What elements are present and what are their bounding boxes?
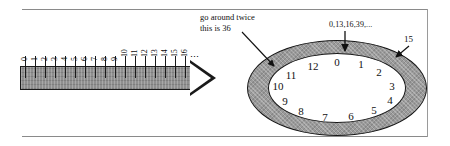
- frame-rule-top: [22, 9, 428, 10]
- figure-canvas: 0 1 2 3 4 5 6 7 8 9 10 11 12 13 14 15 16: [0, 0, 450, 146]
- number-line-continuation-label: ⋮: [191, 51, 200, 61]
- number-line-tick: [135, 56, 136, 78]
- number-line-tick-label: 7: [91, 57, 99, 61]
- number-line: 0 1 2 3 4 5 6 7 8 9 10 11 12 13 14 15 16: [20, 66, 210, 90]
- number-line-tick-label: 2: [41, 57, 49, 61]
- number-line-tick-label: 15: [171, 49, 179, 57]
- clock-number: 7: [322, 112, 328, 123]
- number-line-tick-label: 16: [181, 49, 189, 57]
- clock-number: 9: [282, 96, 288, 107]
- number-line-tick: [165, 56, 166, 78]
- annotation-go-around-twice-line2: this is 36: [200, 23, 255, 34]
- number-line-tick-label: 5: [71, 57, 79, 61]
- clock-number: 6: [348, 111, 354, 122]
- modular-clock: 0 1 2 3 4 5 6 7 8 9 10 11 12: [247, 40, 427, 136]
- number-line-tick: [145, 56, 146, 78]
- number-line-tick: [185, 56, 186, 78]
- clock-number: 3: [389, 81, 395, 92]
- number-line-tick-label: 8: [101, 57, 109, 61]
- clock-number: 12: [308, 61, 319, 72]
- frame-rule-bottom: [22, 136, 428, 137]
- frame-rule-right: [427, 9, 428, 137]
- annotation-go-around-twice-line1: go around twice: [200, 12, 255, 23]
- number-line-tick-label: 0: [21, 57, 29, 61]
- number-line-tick-label: 11: [131, 50, 139, 57]
- annotation-sequence: 0,13,16,39,...: [329, 20, 372, 31]
- annotation-fifteen: 15: [404, 34, 413, 45]
- number-line-tick-label: 9: [111, 57, 119, 61]
- clock-number: 0: [334, 57, 340, 68]
- number-line-tick-label: 14: [161, 49, 169, 57]
- clock-number: 8: [298, 106, 304, 117]
- clock-number: 11: [286, 70, 297, 81]
- number-line-tick-label: 13: [151, 49, 159, 57]
- number-line-arrowhead-fill: [190, 63, 211, 93]
- number-line-tick-label: 3: [51, 57, 59, 61]
- number-line-tick-label: 1: [31, 57, 39, 61]
- number-line-tick-label: 6: [81, 57, 89, 61]
- annotation-go-around-twice: go around twice this is 36: [200, 12, 255, 33]
- clock-number: 1: [358, 59, 364, 70]
- clock-number: 5: [371, 105, 377, 116]
- clock-number: 10: [273, 81, 284, 92]
- number-line-tick: [125, 56, 126, 78]
- number-line-tick-label: 12: [141, 49, 149, 57]
- clock-number: 2: [376, 67, 382, 78]
- clock-number: 4: [387, 95, 393, 106]
- number-line-tick: [155, 56, 156, 78]
- number-line-tick-label: 10: [121, 49, 129, 57]
- number-line-tick: [175, 56, 176, 78]
- number-line-tick-label: 4: [61, 57, 69, 61]
